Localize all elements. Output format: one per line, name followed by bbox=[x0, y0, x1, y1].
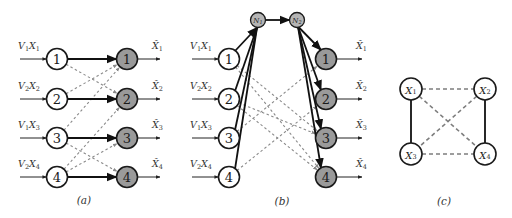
subscript: 1 bbox=[363, 45, 367, 53]
panel-caption: (a) bbox=[77, 194, 91, 206]
sink-node-label: 4 bbox=[123, 170, 131, 185]
input-label: V2X4 bbox=[18, 158, 40, 171]
subscript: 1 bbox=[259, 19, 262, 25]
input-label: V1X3 bbox=[190, 119, 212, 132]
subscript: 2 bbox=[159, 85, 163, 93]
output-label: X̂2 bbox=[355, 80, 367, 93]
nodes-layer bbox=[47, 13, 497, 188]
output-label: X̂4 bbox=[355, 158, 367, 171]
subscript: 4 bbox=[363, 163, 367, 171]
subscript: 1 bbox=[36, 45, 40, 53]
panel-caption: (b) bbox=[275, 195, 290, 207]
subscript: 3 bbox=[159, 124, 163, 132]
source-node-label: 4 bbox=[53, 170, 61, 185]
subscript: 3 bbox=[412, 153, 416, 161]
input-label: V1X3 bbox=[18, 119, 40, 132]
output-label: X̂2 bbox=[151, 80, 163, 93]
relay-to-sink-edge bbox=[298, 27, 321, 130]
source-node-label: 1 bbox=[53, 52, 61, 67]
output-label: X̂1 bbox=[355, 40, 367, 53]
subscript: 4 bbox=[208, 163, 212, 171]
dashed-edge bbox=[66, 143, 117, 171]
subscript: 3 bbox=[208, 124, 212, 132]
input-label: V1X1 bbox=[18, 40, 40, 53]
sink-node-label: 4 bbox=[322, 170, 330, 185]
subscript: 1 bbox=[412, 88, 416, 96]
sink-node-label: 3 bbox=[123, 131, 131, 146]
diagram-canvas: V1X1V2X2V1X3V2X4X̂1X̂2X̂3X̂412341234(a)V… bbox=[0, 0, 512, 218]
output-label: X̂1 bbox=[151, 40, 163, 53]
subscript: 3 bbox=[363, 124, 367, 132]
source-node-label: 3 bbox=[53, 131, 61, 146]
subscript: 3 bbox=[36, 124, 40, 132]
input-label: V2X2 bbox=[190, 80, 212, 93]
source-node-label: 2 bbox=[53, 92, 61, 107]
sink-node-label: 2 bbox=[123, 92, 131, 107]
source-node-label: 2 bbox=[225, 92, 233, 107]
source-node-label: 3 bbox=[225, 131, 233, 146]
subscript: 2 bbox=[208, 85, 212, 93]
sink-node-label: 2 bbox=[322, 92, 330, 107]
subscript: 1 bbox=[159, 45, 163, 53]
output-label: X̂3 bbox=[151, 119, 163, 132]
source-node-label: 4 bbox=[225, 170, 233, 185]
source-node-label: 1 bbox=[225, 52, 233, 67]
subscript: 2 bbox=[36, 85, 40, 93]
input-label: V2X2 bbox=[18, 80, 40, 93]
subscript: 4 bbox=[36, 163, 40, 171]
subscript: 4 bbox=[159, 163, 163, 171]
sink-node-label: 1 bbox=[322, 52, 330, 67]
subscript: 2 bbox=[297, 19, 301, 25]
panel-caption: (c) bbox=[437, 195, 451, 207]
output-label: X̂4 bbox=[151, 158, 163, 171]
figure: V1X1V2X2V1X3V2X4X̂1X̂2X̂3X̂412341234(a)V… bbox=[0, 0, 512, 218]
input-label: V2X4 bbox=[190, 158, 212, 171]
sink-node-label: 1 bbox=[123, 52, 131, 67]
subscript: 2 bbox=[363, 85, 367, 93]
subscript: 2 bbox=[486, 88, 490, 96]
dashed-edge bbox=[239, 103, 316, 134]
subscript: 1 bbox=[208, 45, 212, 53]
input-label: V1X1 bbox=[190, 40, 212, 53]
output-label: X̂3 bbox=[355, 119, 367, 132]
subscript: 4 bbox=[486, 153, 490, 161]
sink-node-label: 3 bbox=[322, 131, 330, 146]
